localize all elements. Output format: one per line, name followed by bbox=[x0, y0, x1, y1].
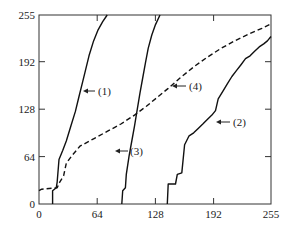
curve-2 bbox=[167, 37, 271, 205]
annotation-2: (2) bbox=[216, 116, 246, 129]
annotation-3: (3) bbox=[115, 145, 143, 158]
svg-text:(2): (2) bbox=[233, 116, 246, 129]
y-tick-label: 0 bbox=[30, 198, 36, 210]
svg-text:(3): (3) bbox=[130, 145, 143, 158]
y-axis-ticks bbox=[39, 62, 271, 157]
y-tick-label: 192 bbox=[19, 56, 36, 68]
annotation-1: (1) bbox=[83, 85, 111, 98]
curves bbox=[39, 15, 271, 204]
curve-1 bbox=[53, 15, 108, 204]
x-tick-label: 255 bbox=[263, 208, 280, 220]
y-tick-label: 128 bbox=[19, 103, 36, 115]
x-tick-label: 192 bbox=[205, 208, 222, 220]
svg-text:(4): (4) bbox=[189, 80, 202, 93]
plot-frame bbox=[39, 15, 271, 204]
x-axis-ticks bbox=[97, 15, 213, 204]
svg-text:(1): (1) bbox=[98, 85, 111, 98]
x-tick-label: 0 bbox=[36, 208, 42, 220]
annotation-4: (4) bbox=[172, 80, 202, 93]
curve-4 bbox=[39, 24, 271, 191]
chart: 0 64 128 192 255 0 64 128 192 255 (1) (4… bbox=[0, 0, 292, 226]
x-tick-label: 64 bbox=[92, 208, 104, 220]
y-tick-label: 64 bbox=[24, 151, 36, 163]
x-tick-label: 128 bbox=[147, 208, 164, 220]
y-tick-label: 255 bbox=[19, 9, 36, 21]
